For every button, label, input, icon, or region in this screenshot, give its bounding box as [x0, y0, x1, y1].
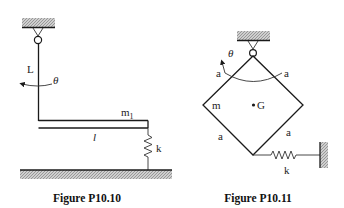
label-m: m [212, 99, 221, 111]
ceiling-support [237, 31, 270, 41]
label-a-bottom-right: a [286, 126, 291, 138]
spring-icon [253, 151, 320, 159]
rotation-arrow-icon [22, 84, 52, 86]
diagram-canvas: L θ m1 l k Figure P10.10 [0, 0, 344, 208]
ground [20, 170, 172, 179]
label-a-top-left: a [216, 67, 221, 79]
label-l: l [93, 131, 96, 143]
caption-p10-11: Figure P10.11 [224, 192, 292, 205]
label-theta: θ [53, 74, 59, 86]
label-G: G [257, 99, 265, 111]
spring-icon [144, 128, 152, 170]
center-of-gravity-dot [252, 103, 255, 106]
pivot-icon [33, 28, 43, 44]
label-a-top-right: a [284, 67, 289, 79]
rotation-arrow-icon [222, 62, 282, 82]
label-a-bottom-left: a [218, 130, 223, 142]
figure-p10-10: L θ m1 l k Figure P10.10 [20, 18, 172, 205]
label-k: k [156, 142, 162, 154]
wall [320, 142, 328, 168]
label-L: L [27, 63, 34, 75]
horizontal-bar [39, 121, 149, 129]
caption-p10-10: Figure P10.10 [53, 192, 121, 205]
label-theta: θ [228, 47, 234, 59]
label-m1: m1 [121, 106, 134, 121]
pivot-icon [248, 41, 258, 56]
label-k: k [284, 164, 290, 176]
ceiling-support [22, 18, 55, 28]
figure-p10-11: θ a a a a m G k Figure P10.11 [203, 31, 328, 205]
